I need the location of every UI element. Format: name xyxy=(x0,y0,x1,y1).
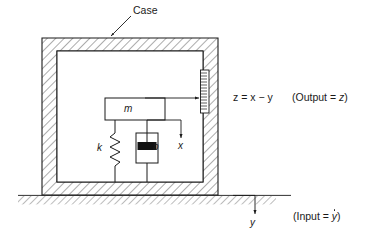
input-note-close: ) xyxy=(337,210,341,222)
input-note-variable: y xyxy=(332,211,337,222)
ground xyxy=(18,195,291,204)
x-displacement-label: x xyxy=(178,141,183,151)
spring-label: k xyxy=(97,143,102,153)
diagram-canvas xyxy=(0,0,378,241)
output-equation: z = x − y xyxy=(233,92,273,103)
mass-rectangle xyxy=(105,98,165,120)
output-note-close: ) xyxy=(344,91,348,103)
y-displacement-label: y xyxy=(250,218,255,228)
scale-ruler xyxy=(201,70,210,113)
mass-block xyxy=(105,98,165,120)
mechanical-system-diagram: Case m k b x y z = x − y (Output = z) (I… xyxy=(0,0,378,241)
mass-label: m xyxy=(124,104,132,114)
output-note-open: (Output = xyxy=(292,91,339,103)
input-note-open: (Input = xyxy=(293,210,332,222)
ground-hatch xyxy=(18,196,276,205)
output-note: (Output = z) xyxy=(292,92,348,103)
damper-label: b xyxy=(153,142,159,152)
case-label: Case xyxy=(133,5,158,16)
scale-ruler-body xyxy=(201,70,210,113)
case-leader-line xyxy=(111,16,131,36)
input-note: (Input = y) xyxy=(293,211,341,222)
